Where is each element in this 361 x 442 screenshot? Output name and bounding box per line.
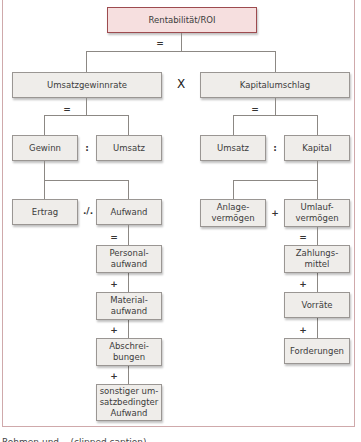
connector bbox=[86, 98, 87, 115]
operator-plus: + bbox=[268, 208, 282, 218]
node-label: Gewinn bbox=[29, 143, 61, 154]
node-label: Vorräte bbox=[302, 300, 333, 311]
node-forderungen: Forderungen bbox=[284, 338, 350, 364]
connector bbox=[317, 115, 318, 135]
operator-equals: = bbox=[60, 104, 74, 114]
node-materialaufwand: Material- aufwand bbox=[96, 292, 162, 320]
operator-divide: : bbox=[80, 143, 94, 153]
connector bbox=[128, 180, 129, 199]
connector bbox=[86, 51, 276, 52]
node-label: Umsatz bbox=[217, 143, 249, 154]
node-abschreibungen: Abschrei- bungen bbox=[96, 338, 162, 366]
node-rentabilitaet-roi: Rentabilität/ROI bbox=[107, 7, 257, 33]
connector bbox=[233, 180, 234, 199]
connector bbox=[275, 51, 276, 72]
connector bbox=[44, 180, 129, 181]
connector bbox=[86, 51, 87, 72]
node-label: Forderungen bbox=[290, 346, 344, 357]
operator-plus: + bbox=[107, 371, 121, 381]
operator-divide: : bbox=[268, 143, 282, 153]
operator-multiply: X bbox=[174, 79, 188, 89]
node-umsatzgewinnrate: Umsatzgewinnrate bbox=[12, 72, 162, 98]
node-sonstiger-aufwand: sonstiger um- satzbedingter Aufwand bbox=[96, 384, 162, 421]
connector bbox=[181, 33, 182, 51]
connector bbox=[233, 115, 234, 135]
node-umsatz-right: Umsatz bbox=[200, 135, 266, 161]
node-vorraete: Vorräte bbox=[284, 292, 350, 318]
operator-plus: + bbox=[107, 279, 121, 289]
node-personalaufwand: Personal- aufwand bbox=[96, 245, 162, 273]
operator-plus: + bbox=[296, 325, 310, 335]
node-label: Umlauf- vermögen bbox=[295, 202, 338, 224]
node-label: Material- aufwand bbox=[110, 295, 148, 317]
node-label: Abschrei- bungen bbox=[109, 341, 149, 363]
node-label: Umsatz bbox=[113, 143, 145, 154]
operator-plus: + bbox=[107, 325, 121, 335]
connector bbox=[44, 180, 45, 199]
connector bbox=[233, 115, 318, 116]
node-label: sonstiger um- satzbedingter Aufwand bbox=[100, 386, 159, 419]
node-label: Kapital bbox=[302, 143, 331, 154]
figure-caption: Rohmen und ...(clipped caption) bbox=[2, 435, 146, 442]
node-label: Personal- aufwand bbox=[109, 248, 148, 270]
connector bbox=[128, 115, 129, 135]
node-ertrag: Ertrag bbox=[12, 199, 78, 225]
node-kapital: Kapital bbox=[284, 135, 350, 161]
operator-equals: = bbox=[107, 232, 121, 242]
connector bbox=[317, 227, 318, 339]
node-gewinn: Gewinn bbox=[12, 135, 78, 161]
node-label: Zahlungs- mittel bbox=[296, 248, 338, 270]
node-label: Rentabilität/ROI bbox=[148, 15, 215, 26]
node-umlaufvermoegen: Umlauf- vermögen bbox=[284, 199, 350, 227]
operator-equals: = bbox=[248, 104, 262, 114]
operator-plus: + bbox=[296, 279, 310, 289]
node-kapitalumschlag: Kapitalumschlag bbox=[200, 72, 350, 98]
connector bbox=[44, 115, 45, 135]
operator-equals: = bbox=[153, 38, 167, 48]
connector bbox=[275, 98, 276, 115]
node-label: Kapitalumschlag bbox=[240, 80, 310, 91]
connector bbox=[233, 180, 318, 181]
connector bbox=[44, 161, 45, 181]
node-anlagevermoegen: Anlage- vermögen bbox=[200, 199, 266, 227]
operator-equals: = bbox=[296, 232, 310, 242]
node-label: Umsatzgewinnrate bbox=[47, 80, 127, 91]
node-zahlungsmittel: Zahlungs- mittel bbox=[284, 245, 350, 273]
node-label: Anlage- vermögen bbox=[211, 202, 254, 224]
connector bbox=[317, 180, 318, 199]
connector bbox=[317, 161, 318, 181]
operator-minus: ./. bbox=[80, 206, 96, 216]
node-label: Ertrag bbox=[32, 207, 58, 218]
connector bbox=[44, 115, 129, 116]
node-label: Aufwand bbox=[111, 207, 148, 218]
node-aufwand: Aufwand bbox=[96, 199, 162, 225]
node-umsatz-left: Umsatz bbox=[96, 135, 162, 161]
